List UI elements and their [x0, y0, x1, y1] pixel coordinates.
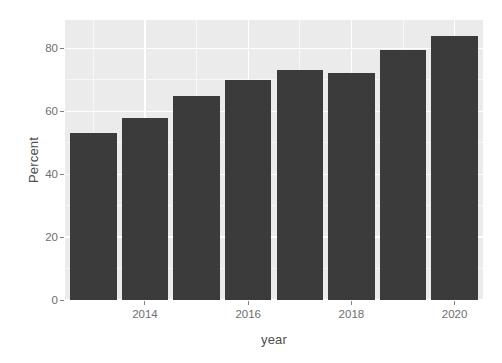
x-tick-mark — [351, 301, 352, 305]
y-tick-label: 80 — [0, 42, 58, 54]
y-tick-mark — [60, 174, 64, 175]
y-axis-ticks: 020406080 — [0, 0, 58, 363]
x-tick-label: 2014 — [132, 308, 158, 320]
y-tick-label: 0 — [0, 294, 58, 306]
plot-panel — [65, 20, 483, 300]
bar — [277, 70, 323, 300]
bar — [173, 96, 219, 300]
y-tick-label: 40 — [0, 168, 58, 180]
bar — [431, 36, 477, 300]
x-tick-mark — [144, 301, 145, 305]
y-tick-label: 60 — [0, 105, 58, 117]
y-tick-mark — [60, 300, 64, 301]
x-tick-label: 2018 — [339, 308, 365, 320]
y-tick-mark — [60, 48, 64, 49]
bar — [122, 118, 168, 300]
x-tick-mark — [248, 301, 249, 305]
bar-chart-figure: Percent year 020406080 2014201620182020 — [0, 0, 502, 363]
y-tick-mark — [60, 111, 64, 112]
bar — [225, 80, 271, 300]
x-tick-label: 2016 — [235, 308, 261, 320]
bar — [70, 133, 116, 300]
grid-major-horizontal — [65, 48, 483, 49]
x-axis-title: year — [65, 332, 483, 347]
y-tick-label: 20 — [0, 231, 58, 243]
y-tick-mark — [60, 237, 64, 238]
x-tick-mark — [454, 301, 455, 305]
bar — [380, 50, 426, 300]
x-tick-label: 2020 — [442, 308, 468, 320]
bar — [328, 73, 374, 300]
